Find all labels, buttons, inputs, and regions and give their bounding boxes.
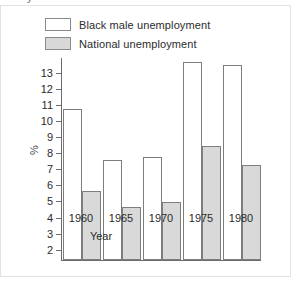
y-axis-title: % bbox=[28, 145, 40, 155]
bar-national-1960 bbox=[82, 191, 101, 260]
legend-item-national: National unemployment bbox=[45, 34, 210, 53]
x-axis-tick-label-1980: 1980 bbox=[229, 212, 253, 224]
bar-black-male-1960 bbox=[63, 109, 82, 260]
y-axis-tick-label: 3 bbox=[47, 228, 53, 240]
bar-black-male-1980 bbox=[223, 65, 242, 260]
x-axis-tick-label-1975: 1975 bbox=[189, 212, 213, 224]
bar-black-male-1970 bbox=[143, 157, 162, 260]
y-axis-tick-label: 13 bbox=[41, 67, 53, 79]
y-axis-tick-label: 11 bbox=[42, 99, 53, 111]
clipped-glyph: y bbox=[27, 0, 33, 3]
bar-group-1980 bbox=[223, 58, 261, 260]
y-axis-tick-label: 12 bbox=[41, 83, 53, 95]
x-axis-tick-label-1960: 1960 bbox=[69, 212, 93, 224]
bar-black-male-1965 bbox=[103, 160, 122, 260]
y-axis-tick-label: 2 bbox=[47, 244, 53, 256]
y-axis-tick-label: 8 bbox=[47, 147, 53, 159]
y-axis-tick-label: 4 bbox=[47, 212, 53, 224]
bar-black-male-1975 bbox=[183, 62, 202, 260]
bar-national-1975 bbox=[202, 146, 221, 260]
y-axis-tick-label: 7 bbox=[47, 163, 53, 175]
y-axis-tick-label: 10 bbox=[41, 115, 53, 127]
chart-legend: Black male unemployment National unemplo… bbox=[45, 15, 210, 53]
legend-item-black-male: Black male unemployment bbox=[45, 15, 210, 34]
legend-label-black-male: Black male unemployment bbox=[79, 19, 210, 31]
y-axis-tick-label: 9 bbox=[47, 131, 53, 143]
bar-group-1975 bbox=[183, 58, 221, 260]
x-axis-tick-label-1965: 1965 bbox=[109, 212, 133, 224]
x-axis-title: Year bbox=[90, 230, 112, 242]
y-axis-tick-label: 6 bbox=[47, 179, 53, 191]
x-axis-tick-label-1970: 1970 bbox=[149, 212, 173, 224]
bar-national-1970 bbox=[162, 202, 181, 260]
chart-frame: Black male unemployment National unemplo… bbox=[0, 5, 291, 277]
legend-label-national: National unemployment bbox=[79, 38, 197, 50]
gray-square-icon bbox=[45, 37, 71, 50]
bar-group-1970 bbox=[143, 58, 181, 260]
y-axis-tick-label: 5 bbox=[47, 195, 53, 207]
white-square-icon bbox=[45, 18, 71, 31]
